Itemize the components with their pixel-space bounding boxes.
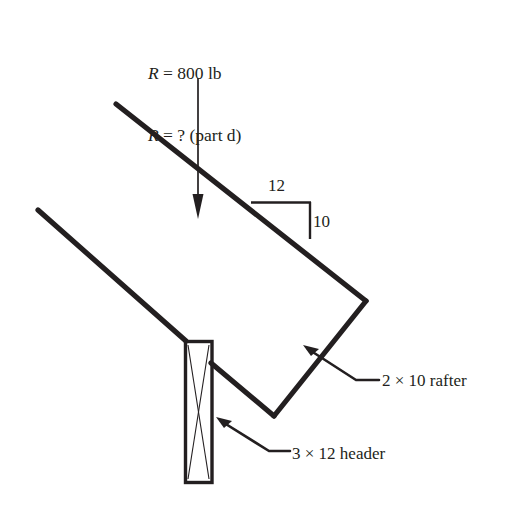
rafter-header-diagram: R = 800 lb R = ? (part d) 12 10 2 × 10 r… — [0, 0, 520, 514]
rafter-bottom-edge — [38, 210, 186, 341]
diagram-canvas — [0, 0, 520, 514]
slope-run-label: 12 — [268, 176, 285, 196]
rafter-leader-line — [308, 349, 379, 380]
load-label-block: R = 800 lb R = ? (part d) — [148, 22, 241, 187]
load-symbol-r-1: R — [148, 63, 159, 83]
slope-rise-label: 10 — [313, 212, 330, 232]
header-member-label: 3 × 12 header — [292, 444, 385, 464]
rafter-end-cut — [274, 301, 366, 416]
load-arrow-head — [193, 194, 204, 219]
load-symbol-r-2: R — [148, 125, 159, 145]
rafter-bottom-edge-right — [211, 363, 274, 416]
rafter-member-label: 2 × 10 rafter — [382, 371, 467, 391]
header-leader-line — [221, 421, 290, 451]
load-label-line-1: R = 800 lb — [148, 63, 241, 84]
load-value-2: = ? (part d) — [159, 125, 242, 145]
load-value-1: = 800 lb — [159, 63, 222, 83]
load-label-line-2: R = ? (part d) — [148, 125, 241, 146]
